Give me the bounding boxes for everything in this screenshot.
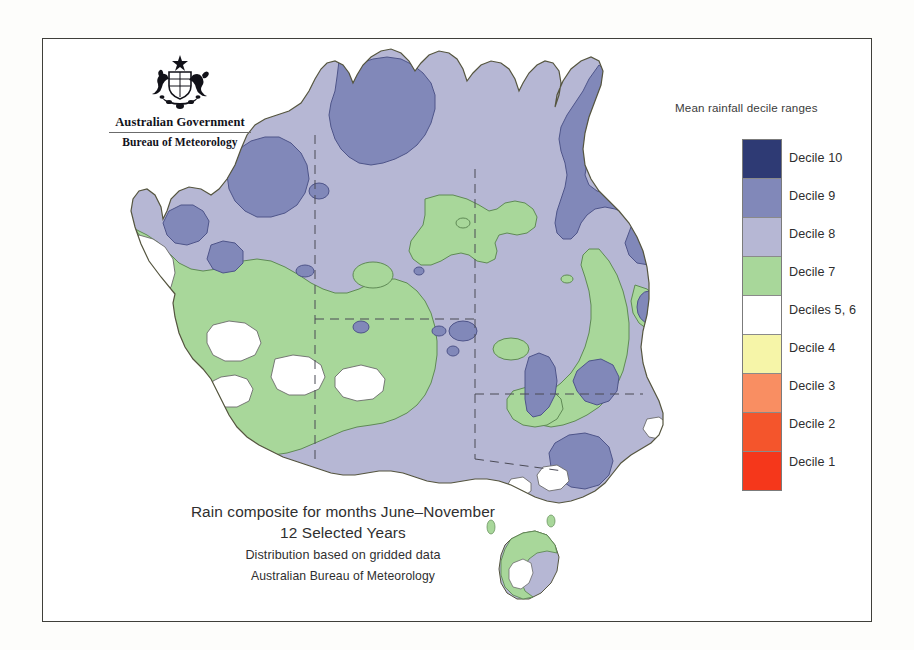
government-wordmark: Australian Government xyxy=(105,115,255,129)
legend-swatch xyxy=(743,256,781,295)
map-frame: Australian Government Bureau of Meteorol… xyxy=(42,38,872,622)
caption-line-1: Rain composite for months June–November xyxy=(103,501,583,522)
legend-item-label: Decile 2 xyxy=(789,405,856,443)
poster-background: Australian Government Bureau of Meteorol… xyxy=(0,0,914,650)
legend-item-label: Decile 1 xyxy=(789,443,856,481)
legend-label-list: Decile 10Decile 9Decile 8Decile 7Deciles… xyxy=(789,139,856,481)
caption-line-4: Australian Bureau of Meteorology xyxy=(103,566,583,587)
bom-branding: Australian Government Bureau of Meteorol… xyxy=(105,53,255,148)
australian-coat-of-arms-icon xyxy=(147,53,213,113)
legend-item-label: Deciles 5, 6 xyxy=(789,291,856,329)
legend-swatch xyxy=(743,178,781,217)
legend-color-bar xyxy=(742,139,782,491)
legend-item-label: Decile 10 xyxy=(789,139,856,177)
legend-item-label: Decile 3 xyxy=(789,367,856,405)
legend-item-label: Decile 8 xyxy=(789,215,856,253)
legend-swatch xyxy=(743,217,781,256)
legend-swatch xyxy=(743,412,781,451)
legend-title: Mean rainfall decile ranges xyxy=(675,101,818,114)
legend-item-label: Decile 4 xyxy=(789,329,856,367)
legend-swatch xyxy=(743,373,781,412)
legend-swatch xyxy=(743,295,781,334)
legend-item-label: Decile 9 xyxy=(789,177,856,215)
caption-line-2: 12 Selected Years xyxy=(103,522,583,544)
legend-swatch xyxy=(743,140,781,178)
caption-line-3: Distribution based on gridded data xyxy=(103,544,583,566)
agency-wordmark: Bureau of Meteorology xyxy=(105,136,255,148)
legend-swatch xyxy=(743,334,781,373)
map-caption: Rain composite for months June–November … xyxy=(103,501,583,587)
legend-item-label: Decile 7 xyxy=(789,253,856,291)
branding-divider xyxy=(109,132,251,133)
legend-swatch xyxy=(743,451,781,490)
